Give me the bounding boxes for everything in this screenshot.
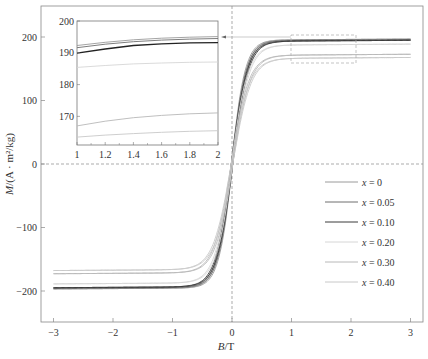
y-axis-label: M/(A · m²/kg) (3, 133, 16, 196)
y-tick-label: −200 (16, 286, 37, 297)
inset-x-tick-label: 2 (216, 149, 221, 160)
hysteresis-chart: −3−2−10123−200−1000100200 11.21.41.61.82… (0, 0, 428, 359)
x-tick-label: 0 (230, 327, 235, 338)
legend-label: x = 0.40 (361, 277, 395, 288)
x-tick-label: 1 (289, 327, 294, 338)
inset-y-tick-label: 180 (59, 79, 74, 90)
inset-x-tick-label: 1.6 (155, 149, 168, 160)
zoom-arrow-head-icon (221, 36, 226, 39)
inset-x-tick-label: 1 (75, 149, 80, 160)
x-tick-label: −2 (108, 327, 119, 338)
legend-label: x = 0.10 (361, 217, 395, 228)
x-tick-label: 2 (349, 327, 354, 338)
inset-frame (77, 21, 218, 145)
inset-y-tick-label: 200 (59, 16, 74, 27)
inset-x-tick-label: 1.4 (127, 149, 140, 160)
y-tick-label: 100 (22, 95, 37, 106)
y-tick-label: −100 (16, 222, 37, 233)
inset-y-tick-label: 190 (59, 47, 74, 58)
legend-label: x = 0.30 (361, 257, 395, 268)
inset-x-tick-label: 1.2 (99, 149, 112, 160)
legend-label: x = 0 (361, 177, 382, 188)
x-tick-label: −1 (167, 327, 178, 338)
inset-y-tick-label: 170 (59, 111, 74, 122)
legend-label: x = 0.05 (361, 197, 395, 208)
x-tick-label: −3 (48, 327, 59, 338)
y-tick-label: 0 (32, 159, 37, 170)
x-tick-label: 3 (408, 327, 413, 338)
x-axis-label: B/T (218, 340, 235, 352)
y-tick-label: 200 (22, 32, 37, 43)
legend-label: x = 0.20 (361, 237, 395, 248)
legend: x = 0x = 0.05x = 0.10x = 0.20x = 0.30x =… (325, 177, 395, 288)
inset-x-tick-label: 1.8 (184, 149, 197, 160)
